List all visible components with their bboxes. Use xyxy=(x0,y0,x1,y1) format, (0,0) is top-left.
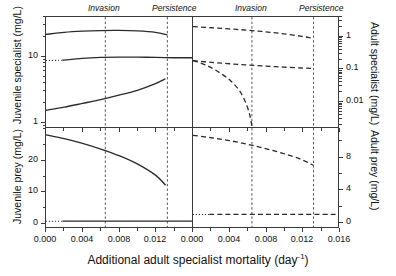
tick-mark xyxy=(339,78,342,79)
tick-mark xyxy=(339,104,342,105)
tick-mark xyxy=(339,46,342,47)
tick-mark xyxy=(339,41,342,42)
panel-adult-specialist xyxy=(192,16,339,128)
tick-mark xyxy=(339,16,342,17)
tick-mark xyxy=(339,111,342,112)
tick-mark xyxy=(43,90,46,91)
tick-mark xyxy=(339,189,342,190)
persistence-label-left: Persistence xyxy=(152,3,196,13)
tick-mark xyxy=(339,85,342,86)
tick-mark xyxy=(229,228,230,231)
tick-mark xyxy=(43,144,46,145)
series-upper-branch xyxy=(193,135,314,165)
xtick-label-bottom-right-2: 0.008 xyxy=(246,234,286,244)
tick-mark xyxy=(43,59,46,60)
tick-mark xyxy=(339,124,342,125)
tick-mark xyxy=(43,66,46,67)
persistence-label-right: Persistence xyxy=(299,3,343,13)
tick-mark xyxy=(339,81,342,82)
xtick-label-bottom-left-0: 0.000 xyxy=(25,234,65,244)
tick-mark xyxy=(339,228,340,231)
ytick-label-bottom-left-2: 20 xyxy=(0,154,38,164)
tick-mark xyxy=(339,173,342,174)
tick-mark xyxy=(43,128,46,129)
tick-mark xyxy=(302,228,303,231)
tick-mark xyxy=(43,76,46,77)
tick-mark xyxy=(137,228,138,231)
tick-mark xyxy=(192,228,193,231)
series-upper-branch xyxy=(193,27,314,39)
tick-mark xyxy=(229,128,230,131)
series-upper-branch xyxy=(46,135,166,185)
invasion-label-left: Invasion xyxy=(88,3,120,13)
tick-mark xyxy=(339,103,342,104)
tick-mark xyxy=(339,222,342,223)
xaxis-title: Additional adult specialist mortality (d… xyxy=(0,252,396,267)
tick-mark xyxy=(43,36,46,37)
tick-mark xyxy=(339,72,342,73)
tick-mark xyxy=(63,128,64,131)
tick-mark xyxy=(339,206,342,207)
xtick-label-bottom-left-1: 0.004 xyxy=(62,234,102,244)
ytick-label-bottom-left-1: 10 xyxy=(0,185,38,195)
tick-mark xyxy=(210,228,211,231)
tick-mark xyxy=(321,128,322,131)
tick-mark xyxy=(339,108,342,109)
tick-mark xyxy=(339,91,342,92)
tick-mark xyxy=(43,70,46,71)
tick-mark xyxy=(339,68,342,69)
tick-mark xyxy=(43,82,46,83)
tick-mark xyxy=(43,122,46,123)
ytick-label-bottom-right-1: 4 xyxy=(346,183,386,193)
ytick-label-top-right-2: 0.01 xyxy=(346,95,386,105)
tick-mark xyxy=(43,125,46,126)
tick-mark xyxy=(247,128,248,131)
tick-mark xyxy=(284,128,285,131)
yaxis-title-juvenile-prey: Juvenile prey (mg/L) xyxy=(11,129,23,224)
tick-mark xyxy=(266,128,267,131)
tick-mark xyxy=(82,128,83,131)
panel-adult-prey xyxy=(192,128,339,228)
tick-mark xyxy=(43,160,46,161)
tick-mark xyxy=(43,62,46,63)
xaxis-title-tail: ) xyxy=(305,253,309,267)
tick-mark xyxy=(119,128,120,131)
series-lower-branch xyxy=(46,79,166,111)
tick-mark xyxy=(43,223,46,224)
tick-mark xyxy=(339,76,342,77)
ytick-label-bottom-right-0: 0 xyxy=(346,216,386,226)
tick-mark xyxy=(82,228,83,231)
tick-mark xyxy=(339,59,342,60)
tick-mark xyxy=(43,102,46,103)
tick-mark xyxy=(302,128,303,131)
xtick-label-bottom-right-1: 0.004 xyxy=(209,234,249,244)
ytick-label-top-left-0: 1 xyxy=(0,116,38,126)
tick-mark xyxy=(119,228,120,231)
xtick-label-bottom-right-0: 0.000 xyxy=(172,234,212,244)
tick-mark xyxy=(45,228,46,231)
tick-mark xyxy=(339,73,342,74)
ytick-label-top-right-1: 0.1 xyxy=(346,62,386,72)
tick-mark xyxy=(100,228,101,231)
tick-mark xyxy=(339,128,340,131)
ytick-label-top-right-0: 1 xyxy=(346,30,386,40)
tick-mark xyxy=(247,228,248,231)
tick-mark xyxy=(43,56,46,57)
tick-mark xyxy=(339,26,342,27)
ytick-label-top-left-1: 10 xyxy=(0,50,38,60)
tick-mark xyxy=(266,228,267,231)
tick-mark xyxy=(339,37,342,38)
tick-mark xyxy=(63,228,64,231)
tick-mark xyxy=(43,207,46,208)
xtick-label-bottom-left-2: 0.008 xyxy=(99,234,139,244)
tick-mark xyxy=(43,191,46,192)
tick-mark xyxy=(45,128,46,131)
tick-mark xyxy=(43,176,46,177)
tick-mark xyxy=(339,20,342,21)
series-collapsing-branch xyxy=(193,61,252,126)
ytick-label-bottom-left-0: 0 xyxy=(0,217,38,227)
tick-mark xyxy=(339,36,342,37)
tick-mark xyxy=(339,49,342,50)
tick-mark xyxy=(339,114,342,115)
tick-mark xyxy=(321,228,322,231)
